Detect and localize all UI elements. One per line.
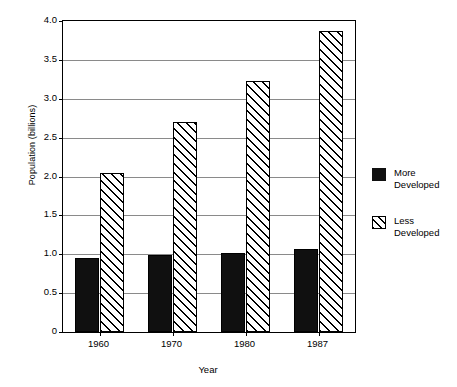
y-tick-mark bbox=[59, 138, 63, 139]
y-tick-label: 4.0 bbox=[31, 15, 57, 25]
x-tick-mark bbox=[246, 332, 247, 336]
bar bbox=[294, 249, 318, 332]
x-tick-mark bbox=[319, 332, 320, 336]
y-tick-mark bbox=[59, 293, 63, 294]
x-axis-title: Year bbox=[62, 364, 354, 375]
y-tick-mark bbox=[59, 99, 63, 100]
y-tick-label: 3.0 bbox=[31, 93, 57, 103]
chart-legend: MoreDevelopedLessDeveloped bbox=[372, 167, 457, 263]
y-tick-label: 1.5 bbox=[31, 209, 57, 219]
y-tick-label: 0 bbox=[31, 326, 57, 336]
bar bbox=[246, 81, 270, 332]
plot-area bbox=[62, 20, 356, 333]
bar bbox=[75, 258, 99, 332]
legend-label: LessDeveloped bbox=[394, 215, 457, 238]
y-tick-mark bbox=[59, 60, 63, 61]
legend-item: LessDeveloped bbox=[372, 215, 457, 241]
chart-root: Population (billions) 00.51.01.52.02.53.… bbox=[0, 0, 457, 387]
legend-label-line1: More bbox=[394, 167, 457, 179]
y-tick-mark bbox=[59, 254, 63, 255]
y-tick-label: 2.5 bbox=[31, 132, 57, 142]
legend-swatch bbox=[372, 216, 386, 229]
x-tick-label: 1960 bbox=[69, 338, 129, 349]
x-tick-label: 1970 bbox=[142, 338, 202, 349]
legend-label: MoreDeveloped bbox=[394, 167, 457, 190]
legend-label-line1: Less bbox=[394, 215, 457, 227]
bar bbox=[173, 122, 197, 332]
x-tick-label: 1980 bbox=[215, 338, 275, 349]
y-tick-mark bbox=[59, 332, 63, 333]
legend-label-line2: Developed bbox=[394, 179, 457, 191]
bar bbox=[100, 173, 124, 332]
y-tick-mark bbox=[59, 21, 63, 22]
bar bbox=[319, 31, 343, 332]
x-tick-mark bbox=[173, 332, 174, 336]
y-tick-label: 1.0 bbox=[31, 248, 57, 258]
bar bbox=[221, 253, 245, 332]
x-tick-mark bbox=[100, 332, 101, 336]
y-tick-label: 2.0 bbox=[31, 171, 57, 181]
y-tick-mark bbox=[59, 177, 63, 178]
legend-swatch bbox=[372, 168, 386, 181]
gridline bbox=[63, 60, 355, 61]
x-tick-label: 1987 bbox=[288, 338, 348, 349]
legend-item: MoreDeveloped bbox=[372, 167, 457, 193]
y-tick-label: 0.5 bbox=[31, 287, 57, 297]
gridline bbox=[63, 99, 355, 100]
legend-label-line2: Developed bbox=[394, 227, 457, 239]
y-axis-tick-labels: 00.51.01.52.02.53.03.54.0 bbox=[27, 0, 57, 387]
y-tick-mark bbox=[59, 215, 63, 216]
bar bbox=[148, 255, 172, 332]
y-tick-label: 3.5 bbox=[31, 54, 57, 64]
gridline bbox=[63, 138, 355, 139]
